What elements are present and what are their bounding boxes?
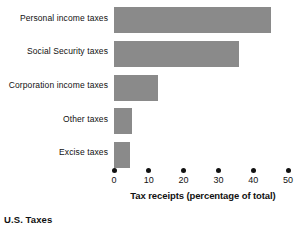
bar-excise-taxes <box>114 142 130 168</box>
x-tick-dot-icon <box>251 168 256 173</box>
bar-row <box>114 41 239 67</box>
x-tick-dot-icon <box>112 168 117 173</box>
x-tick-label: 50 <box>283 175 293 186</box>
category-label-social-security-taxes: Social Security taxes <box>0 46 108 56</box>
category-label-personal-income-taxes: Personal income taxes <box>0 13 108 23</box>
bar-social-security-taxes <box>114 41 239 67</box>
bar-row <box>114 142 130 168</box>
x-tick-label: 10 <box>144 175 154 186</box>
x-tick-label: 40 <box>248 175 258 186</box>
category-labels: Personal income taxes Social Security ta… <box>0 4 108 168</box>
x-tick-dot-icon <box>181 168 186 173</box>
bar-row <box>114 7 271 33</box>
plot-area <box>114 4 298 168</box>
x-tick-label: 30 <box>213 175 223 186</box>
bar-other-taxes <box>114 108 132 134</box>
bar-row <box>114 75 158 101</box>
x-tick-label: 20 <box>179 175 189 186</box>
chart-figure: Personal income taxes Social Security ta… <box>0 0 298 227</box>
category-label-corporation-income-taxes: Corporation income taxes <box>0 80 108 90</box>
category-label-excise-taxes: Excise taxes <box>0 147 108 157</box>
x-tick-dot-icon <box>216 168 221 173</box>
figure-caption: U.S. Taxes <box>4 214 52 225</box>
x-tick-dot-icon <box>286 168 291 173</box>
bar-personal-income-taxes <box>114 7 271 33</box>
x-tick-label: 0 <box>111 175 116 186</box>
x-tick-dot-icon <box>146 168 151 173</box>
bar-row <box>114 108 132 134</box>
bar-corporation-income-taxes <box>114 75 158 101</box>
x-axis-title: Tax receipts (percentage of total) <box>108 190 298 201</box>
category-label-other-taxes: Other taxes <box>0 114 108 124</box>
